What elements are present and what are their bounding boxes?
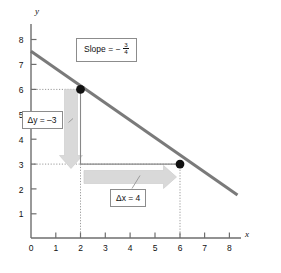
slope-label: Slope — [84, 45, 106, 54]
x-tick-label-8: 8 — [222, 243, 236, 253]
delta-y-arrow — [60, 89, 83, 168]
slope-minus-sign: − — [116, 45, 121, 54]
y-tick-label-1: 1 — [14, 209, 28, 219]
delta-y-callout: Δy = –3 — [22, 111, 63, 129]
point-6-3 — [176, 160, 185, 169]
x-axis-label: x — [245, 229, 249, 239]
slope-fraction: 3 4 — [123, 42, 128, 56]
delta-y-label: Δy = –3 — [28, 116, 57, 125]
y-tick-label-7: 7 — [14, 60, 28, 70]
x-tick-label-5: 5 — [148, 243, 162, 253]
point-2-6 — [76, 85, 85, 94]
rise-run-segments — [81, 89, 181, 164]
delta-x-label: Δx = 4 — [116, 194, 140, 203]
data-points — [76, 85, 184, 169]
x-tick-label-2: 2 — [74, 243, 88, 253]
delta-x-callout: Δx = 4 — [110, 189, 146, 207]
y-tick-label-3: 3 — [14, 160, 28, 170]
y-tick-label-8: 8 — [14, 35, 28, 45]
slope-figure: y x 8 7 6 5 4 3 2 1 0 1 2 3 4 5 6 7 8 Sl… — [0, 0, 281, 273]
delta-x-arrow — [84, 166, 177, 189]
slope-equals: = — [108, 45, 113, 54]
y-tick-label-2: 2 — [14, 185, 28, 195]
x-tick-label-6: 6 — [173, 243, 187, 253]
x-tick-label-0: 0 — [24, 243, 38, 253]
plot-canvas — [0, 0, 281, 273]
y-tick-label-6: 6 — [14, 85, 28, 95]
y-tick-label-4: 4 — [14, 135, 28, 145]
y-axis-label: y — [35, 6, 39, 16]
x-tick-label-4: 4 — [123, 243, 137, 253]
slope-callout: Slope = − 3 4 — [76, 38, 137, 62]
x-tick-label-3: 3 — [98, 243, 112, 253]
slope-denominator: 4 — [123, 48, 128, 56]
x-tick-label-1: 1 — [49, 243, 63, 253]
x-tick-label-7: 7 — [198, 243, 212, 253]
